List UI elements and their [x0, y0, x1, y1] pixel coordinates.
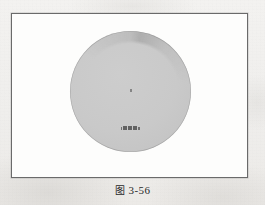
figure-caption: 图 3-56: [0, 183, 265, 198]
circle-center-mark: [130, 89, 132, 92]
caption-number: 3-56: [129, 184, 151, 196]
caption-mark: 图: [115, 185, 129, 196]
circle-inner-label: [113, 125, 147, 131]
figure-frame: [11, 13, 248, 178]
inner-label-glyph: [121, 127, 123, 130]
figure-canvas: [12, 14, 247, 177]
inner-label-glyph: [128, 126, 132, 130]
inner-label-glyph: [123, 126, 127, 130]
inner-label-glyph: [138, 127, 140, 130]
inner-label-glyph: [133, 126, 137, 130]
